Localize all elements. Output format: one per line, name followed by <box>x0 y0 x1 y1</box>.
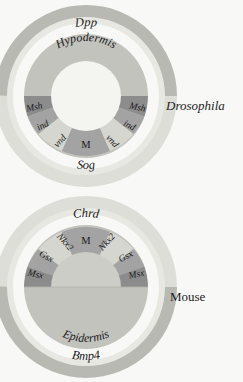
label-midline: M <box>81 235 91 246</box>
label-midline: M <box>81 139 91 150</box>
mouse-cross-section: Chrd Bmp4 Epidermis Msx Gsx Nkx2 M Nkx2 … <box>0 191 175 382</box>
label-chrd: Chrd <box>72 206 101 221</box>
species-label-mouse: Mouse <box>170 289 205 305</box>
panel-drosophila: Dpp Sog Hypodermis Msh ind vnd M vnd ind… <box>0 0 175 191</box>
species-label-drosophila: Drosophila <box>166 98 225 114</box>
label-sog: Sog <box>76 158 95 173</box>
label-bmp4: Bmp4 <box>71 348 101 363</box>
figure-canvas: Dpp Sog Hypodermis Msh ind vnd M vnd ind… <box>0 0 243 382</box>
panel-mouse: Chrd Bmp4 Epidermis Msx Gsx Nkx2 M Nkx2 … <box>0 191 175 382</box>
label-dpp: Dpp <box>73 15 97 30</box>
drosophila-cross-section: Dpp Sog Hypodermis Msh ind vnd M vnd ind… <box>0 0 175 191</box>
embryo-lumen <box>51 61 121 131</box>
